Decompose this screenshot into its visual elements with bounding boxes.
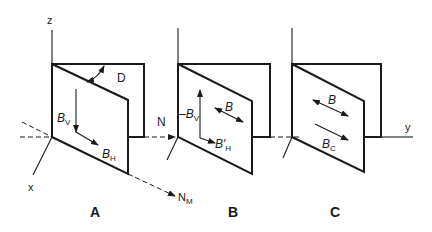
- panel-label-b: B: [228, 204, 238, 220]
- b-v-label: BV: [57, 111, 71, 127]
- vertical-plane-b: [178, 64, 270, 137]
- b-label: B: [225, 100, 233, 114]
- b-h-label: BH: [102, 147, 116, 163]
- z-axis-label: z: [47, 14, 53, 26]
- b-h-prime-label: B′H: [215, 137, 231, 153]
- n-label: N: [157, 115, 166, 129]
- dip-angle-arc: [87, 66, 104, 82]
- normal-dashed: [22, 122, 52, 137]
- n-m-label: NM: [178, 191, 193, 206]
- x-axis-label: x: [28, 181, 34, 193]
- panel-label-c: C: [330, 204, 340, 220]
- b-h-arrow: [76, 132, 98, 145]
- b-c-label: BC: [322, 137, 336, 153]
- dip-label: D: [117, 71, 126, 85]
- x-axis: [33, 137, 52, 175]
- tilted-plane-c: [292, 64, 364, 172]
- y-axis-label: y: [405, 121, 411, 133]
- x-axis-b: [167, 137, 178, 160]
- vertical-plane-c: [292, 64, 381, 137]
- panel-b: –BV B′H B B: [167, 28, 300, 220]
- b-label-c: B: [328, 93, 336, 107]
- panel-a: z x NM D BV BH A: [20, 14, 193, 220]
- panel-label-a: A: [90, 204, 100, 220]
- panel-c: y B BC C: [283, 28, 413, 220]
- magnetic-field-diagram: z x NM D BV BH A N –BV B′H: [0, 0, 432, 232]
- x-axis-c: [283, 137, 292, 158]
- b-c-arrow: [315, 124, 348, 140]
- b-h-prime-arrow: [200, 138, 215, 143]
- n-m-arrow: [128, 174, 175, 196]
- neg-b-v-label: –BV: [178, 107, 200, 123]
